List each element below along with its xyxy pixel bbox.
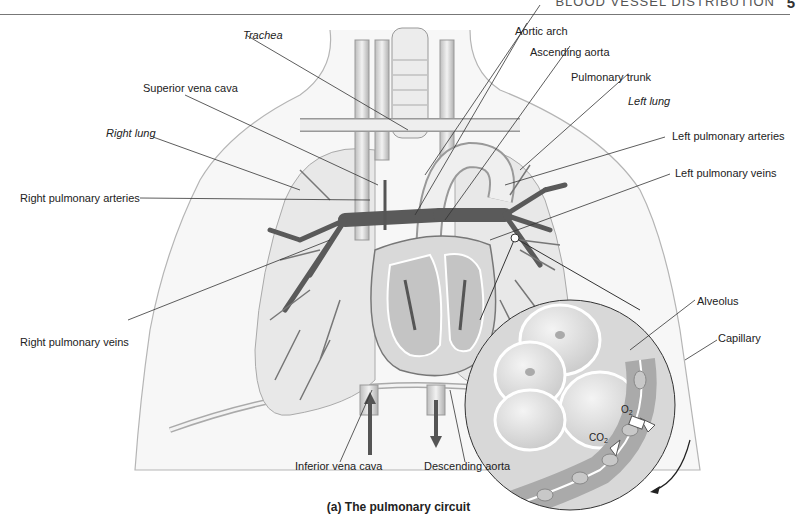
label-ascending-aorta: Ascending aorta <box>530 46 610 58</box>
pulmonary-circuit-illustration <box>0 0 797 525</box>
label-descending-aorta: Descending aorta <box>424 460 510 472</box>
label-inferior-vena-cava: Inferior vena cava <box>295 460 382 472</box>
label-superior-vena-cava: Superior vena cava <box>143 82 238 94</box>
label-right-pulmonary-veins: Right pulmonary veins <box>20 336 129 348</box>
label-pulmonary-trunk: Pulmonary trunk <box>571 71 651 83</box>
label-right-lung: Right lung <box>106 127 156 139</box>
label-co2: CO2 <box>589 432 608 444</box>
label-right-pulmonary-arteries: Right pulmonary arteries <box>20 192 140 204</box>
label-aortic-arch: Aortic arch <box>515 25 568 37</box>
label-alveolus: Alveolus <box>697 295 739 307</box>
label-left-lung: Left lung <box>628 95 670 107</box>
label-left-pulmonary-veins: Left pulmonary veins <box>675 167 777 179</box>
figure-caption: (a) The pulmonary circuit <box>0 500 797 514</box>
label-capillary: Capillary <box>718 332 761 344</box>
label-o2: O2 <box>621 404 633 416</box>
label-trachea: Trachea <box>243 29 283 41</box>
label-left-pulmonary-arteries: Left pulmonary arteries <box>672 130 785 142</box>
